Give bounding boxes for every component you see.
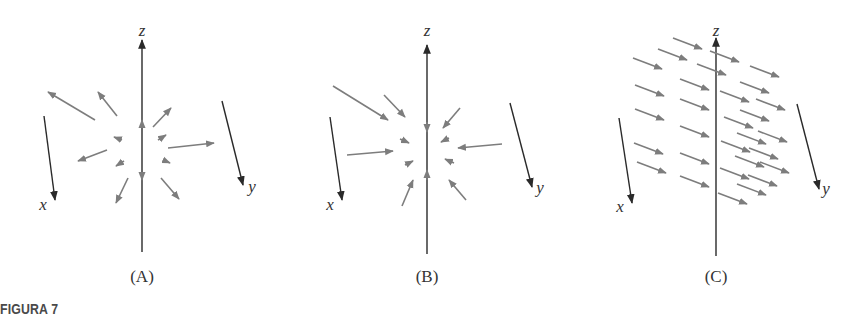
vector-arrow <box>449 180 466 200</box>
vector-arrow <box>758 131 787 142</box>
y-axis-label: y <box>534 178 544 197</box>
y-axis <box>797 104 819 189</box>
vector-arrow <box>333 86 388 120</box>
vector-arrow <box>384 95 405 117</box>
y-axis-label: y <box>820 179 830 198</box>
panel-b: z x y (B) <box>325 21 544 286</box>
x-axis-label: x <box>615 197 624 216</box>
vector-arrows <box>333 86 502 206</box>
vector-field-figure: z x y (A) z x y (B) z x y (C) <box>0 0 866 323</box>
axes <box>619 38 819 256</box>
vector-arrow <box>680 126 709 137</box>
vector-arrow <box>697 64 726 75</box>
vector-arrow <box>78 150 107 161</box>
vector-arrow <box>658 49 687 60</box>
panel-label-a: (A) <box>130 267 154 286</box>
y-axis-label: y <box>246 177 256 196</box>
vector-arrow <box>680 79 709 90</box>
z-axis-label: z <box>138 21 146 40</box>
x-axis <box>44 116 55 200</box>
vector-arrow <box>737 133 766 144</box>
z-axis-label: z <box>423 21 431 40</box>
vector-arrow <box>402 180 413 206</box>
panel-a: z x y (A) <box>38 21 256 286</box>
axis-vector-arrow <box>114 137 122 140</box>
panel-c: z x y (C) <box>615 21 830 286</box>
vector-arrow <box>724 117 753 128</box>
vector-arrow <box>737 184 766 195</box>
vector-arrows <box>48 92 214 203</box>
vector-arrow <box>635 85 664 96</box>
x-axis <box>330 117 342 200</box>
vector-arrow <box>153 108 171 127</box>
y-axis <box>222 101 243 185</box>
vector-arrow <box>720 168 749 179</box>
x-axis <box>619 118 632 203</box>
vector-arrow <box>633 58 662 69</box>
axis-vector-arrow <box>400 139 409 143</box>
axis-vector-arrow <box>116 161 124 166</box>
vector-arrow <box>168 143 214 148</box>
y-axis <box>510 103 532 187</box>
vector-arrow <box>680 99 709 110</box>
axes <box>44 40 243 252</box>
vector-arrow <box>718 193 747 204</box>
x-axis-label: x <box>325 195 334 214</box>
vector-arrow <box>458 144 502 148</box>
axis-vector-arrow <box>163 160 170 163</box>
vector-arrow <box>720 91 749 102</box>
vector-arrow <box>673 38 702 49</box>
vector-arrow <box>98 92 117 116</box>
vector-arrows <box>633 38 789 204</box>
vector-arrow <box>48 92 95 120</box>
vector-arrow <box>161 178 179 199</box>
axes <box>330 45 532 254</box>
vector-arrow <box>634 143 663 154</box>
vector-arrow <box>680 153 709 164</box>
vector-arrow <box>749 148 778 159</box>
z-axis-label: z <box>712 21 720 40</box>
figure-caption: FIGURA 7 <box>0 300 58 317</box>
vector-arrow <box>740 82 769 93</box>
axis-vector-arrow <box>445 159 454 163</box>
vector-arrow <box>750 66 779 77</box>
vector-arrow <box>721 141 750 152</box>
vector-arrow <box>748 175 777 186</box>
axis-vector-arrow <box>441 138 449 142</box>
axis-vector-arrow <box>158 135 166 140</box>
vector-arrow <box>637 162 666 173</box>
axis-vector-arrow <box>405 161 413 165</box>
vector-arrow <box>116 178 128 203</box>
vector-arrow <box>635 109 664 120</box>
vector-arrow <box>760 162 789 173</box>
panel-label-b: (B) <box>416 267 439 286</box>
vector-arrow <box>680 176 709 187</box>
vector-arrow <box>443 108 460 128</box>
vector-arrow <box>756 99 785 110</box>
vector-arrow <box>347 151 393 155</box>
x-axis-label: x <box>38 195 47 214</box>
vector-arrow <box>740 110 769 121</box>
vector-arrow <box>710 51 739 62</box>
panel-label-c: (C) <box>705 267 728 286</box>
vector-arrow <box>735 156 764 167</box>
